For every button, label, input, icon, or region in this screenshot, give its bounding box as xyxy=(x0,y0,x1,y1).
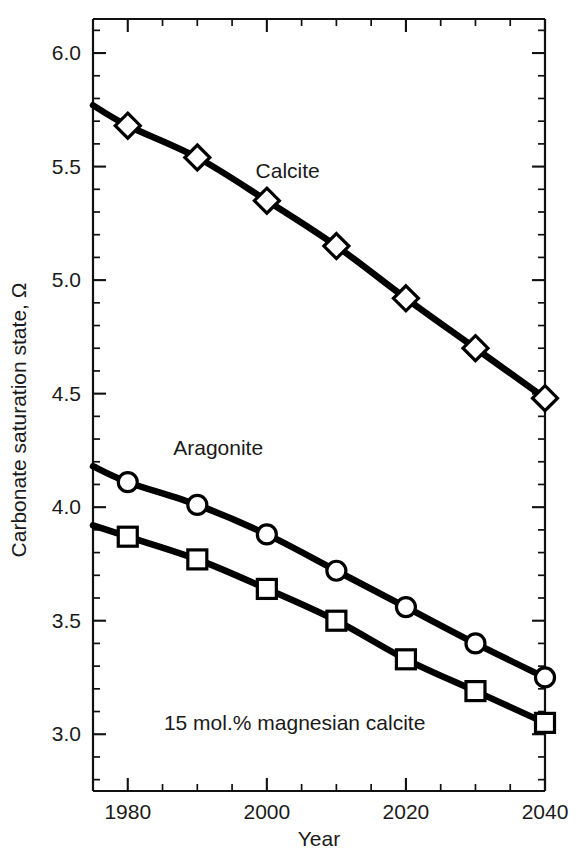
data-point-marker-square xyxy=(188,550,207,569)
chart-figure: 3.03.54.04.55.05.56.0 1980200020202040 C… xyxy=(0,0,583,858)
data-point-marker-circle xyxy=(396,598,415,617)
data-point-marker-square xyxy=(396,650,415,669)
y-tick-label: 6.0 xyxy=(52,41,81,64)
x-tick-label: 2040 xyxy=(522,800,569,823)
y-axis-title: Carbonate saturation state, Ω xyxy=(7,283,30,558)
data-point-marker-square xyxy=(118,527,137,546)
y-tick-label: 4.5 xyxy=(52,382,81,405)
x-tick-label: 2020 xyxy=(383,800,430,823)
data-point-marker-circle xyxy=(118,473,137,492)
y-tick-label: 5.5 xyxy=(52,155,81,178)
data-point-marker-square xyxy=(257,579,276,598)
data-point-marker-circle xyxy=(536,668,555,687)
y-tick-label: 4.0 xyxy=(52,495,81,518)
y-tick-label: 5.0 xyxy=(52,268,81,291)
x-tick-label: 2000 xyxy=(243,800,290,823)
y-tick-label: 3.5 xyxy=(52,609,81,632)
data-point-marker-square xyxy=(536,713,555,732)
data-point-marker-circle xyxy=(188,495,207,514)
x-axis-title: Year xyxy=(298,827,340,850)
data-point-marker-circle xyxy=(327,561,346,580)
series-annotation-2: Aragonite xyxy=(173,436,263,459)
x-tick-label: 1980 xyxy=(104,800,151,823)
data-point-marker-circle xyxy=(257,525,276,544)
carbonate-saturation-line-chart: 3.03.54.04.55.05.56.0 1980200020202040 C… xyxy=(0,0,583,858)
data-point-marker-square xyxy=(327,611,346,630)
series-annotation-3: 15 mol.% magnesian calcite xyxy=(164,711,425,734)
y-tick-label: 3.0 xyxy=(52,722,81,745)
data-point-marker-circle xyxy=(466,634,485,653)
data-point-marker-square xyxy=(466,682,485,701)
series-annotation-1: Calcite xyxy=(256,159,320,182)
